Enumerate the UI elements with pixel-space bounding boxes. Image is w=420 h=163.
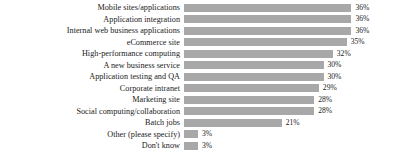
bar-value-label: 29% (323, 84, 337, 92)
bar-row: A new business service30% (0, 60, 420, 72)
bar-track: 21% (180, 117, 420, 129)
bar (184, 130, 198, 138)
bar-track: 28% (180, 94, 420, 106)
bar-category-label: Corporate intranet (0, 84, 180, 93)
bar-category-label: Social computing/collaboration (0, 107, 180, 116)
bar-row: Mobile sites/applications36% (0, 2, 420, 14)
horizontal-bar-chart: Mobile sites/applications36%Application … (0, 0, 420, 163)
bar-track: 35% (180, 37, 420, 49)
bar-track: 32% (180, 48, 420, 60)
bar-row: Other (please specify)3% (0, 129, 420, 141)
bar-value-label: 36% (355, 15, 369, 23)
bar (184, 15, 351, 23)
bar-track: 29% (180, 83, 420, 95)
bar (184, 61, 324, 69)
bar (184, 73, 324, 81)
bar-value-label: 36% (355, 27, 369, 35)
bar (184, 27, 351, 35)
bar-category-label: A new business service (0, 61, 180, 70)
bar-row: Social computing/collaboration28% (0, 106, 420, 118)
bar-value-label: 35% (351, 38, 365, 46)
bar-category-label: Don't know (0, 141, 180, 150)
bar-value-label: 36% (355, 4, 369, 12)
bar-track: 28% (180, 106, 420, 118)
bar (184, 96, 314, 104)
bar-row: Application testing and QA30% (0, 71, 420, 83)
bar-value-label: 30% (328, 61, 342, 69)
bar-row: High-performance computing32% (0, 48, 420, 60)
bar-value-label: 3% (202, 142, 212, 150)
bar-category-label: Application testing and QA (0, 72, 180, 81)
bar-category-label: High-performance computing (0, 49, 180, 58)
bar-row: Application integration36% (0, 14, 420, 26)
bar-value-label: 28% (318, 107, 332, 115)
bar-row: Marketing site28% (0, 94, 420, 106)
bar-track: 3% (180, 140, 420, 152)
bar-category-label: Marketing site (0, 95, 180, 104)
bar-row: Internal web business applications36% (0, 25, 420, 37)
bar (184, 50, 333, 58)
bar (184, 84, 319, 92)
bar-value-label: 21% (286, 119, 300, 127)
bar-category-label: eCommerce site (0, 38, 180, 47)
bar-value-label: 32% (337, 50, 351, 58)
bar (184, 107, 314, 115)
bar-value-label: 30% (328, 73, 342, 81)
bar-row: Batch jobs21% (0, 117, 420, 129)
bar-row: Corporate intranet29% (0, 83, 420, 95)
bar-category-label: Batch jobs (0, 118, 180, 127)
bar-track: 36% (180, 14, 420, 26)
bar-value-label: 28% (318, 96, 332, 104)
bar-track: 36% (180, 25, 420, 37)
bar-track: 36% (180, 2, 420, 14)
bar-category-label: Mobile sites/applications (0, 3, 180, 12)
bar-category-label: Internal web business applications (0, 26, 180, 35)
bar-value-label: 3% (202, 130, 212, 138)
chart-rows: Mobile sites/applications36%Application … (0, 2, 420, 152)
bar-track: 30% (180, 60, 420, 72)
bar (184, 4, 351, 12)
bar-row: Don't know3% (0, 140, 420, 152)
bar (184, 119, 282, 127)
bar (184, 38, 347, 46)
bar-row: eCommerce site35% (0, 37, 420, 49)
bar-track: 3% (180, 129, 420, 141)
bar-track: 30% (180, 71, 420, 83)
bar (184, 142, 198, 150)
bar-category-label: Other (please specify) (0, 130, 180, 139)
bar-category-label: Application integration (0, 15, 180, 24)
